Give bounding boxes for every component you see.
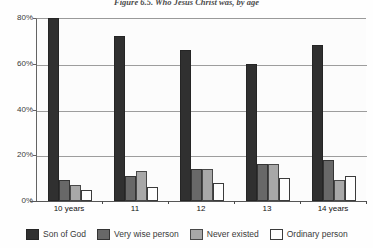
legend-item: Son of God bbox=[26, 229, 86, 240]
bar bbox=[268, 164, 279, 201]
bar bbox=[136, 171, 147, 201]
bar-group bbox=[169, 18, 235, 201]
bar-group bbox=[235, 18, 301, 201]
legend-label: Never existed bbox=[207, 230, 259, 239]
bar bbox=[59, 180, 70, 201]
bar bbox=[334, 180, 345, 201]
y-axis-tick-label: 80% bbox=[3, 14, 33, 22]
legend-swatch-icon bbox=[190, 229, 203, 240]
bar bbox=[191, 169, 202, 201]
bar bbox=[147, 187, 158, 201]
bar bbox=[70, 185, 81, 201]
y-axis-tick-label: 60% bbox=[3, 60, 33, 68]
bar bbox=[48, 18, 59, 201]
bar bbox=[312, 45, 323, 201]
legend-item: Ordinary person bbox=[270, 229, 348, 240]
bar-group bbox=[301, 18, 367, 201]
y-axis-tick-label: 0% bbox=[3, 197, 33, 205]
bar bbox=[246, 64, 257, 201]
bar bbox=[323, 160, 334, 201]
legend-item: Never existed bbox=[190, 229, 259, 240]
legend-item: Very wise person bbox=[97, 229, 179, 240]
legend-label: Son of God bbox=[43, 230, 86, 239]
x-axis-tick-mark bbox=[366, 201, 367, 204]
x-axis-tick-label: 13 bbox=[234, 204, 300, 213]
bar bbox=[125, 176, 136, 201]
chart-legend: Son of GodVery wise personNever existedO… bbox=[26, 227, 356, 242]
y-axis-tick-label: 20% bbox=[3, 151, 33, 159]
legend-swatch-icon bbox=[97, 229, 110, 240]
legend-label: Ordinary person bbox=[287, 230, 348, 239]
x-axis-tick-label: 11 bbox=[102, 204, 168, 213]
x-axis-tick-label: 12 bbox=[168, 204, 234, 213]
bar bbox=[180, 50, 191, 201]
bar bbox=[279, 178, 290, 201]
y-axis: 0%20%40%60%80% bbox=[0, 0, 33, 210]
bar bbox=[345, 176, 356, 201]
bar-group bbox=[103, 18, 169, 201]
x-axis-tick-label: 10 years bbox=[36, 204, 102, 213]
bar bbox=[213, 183, 224, 201]
bar-group bbox=[37, 18, 103, 201]
legend-label: Very wise person bbox=[114, 230, 179, 239]
legend-swatch-icon bbox=[270, 229, 283, 240]
y-axis-tick-label: 40% bbox=[3, 106, 33, 114]
bar bbox=[81, 190, 92, 201]
figure-container: Figure 6.5. Who Jesus Christ was, by age… bbox=[0, 0, 373, 248]
x-axis-baseline bbox=[30, 201, 367, 202]
figure-title: Figure 6.5. Who Jesus Christ was, by age bbox=[0, 0, 373, 7]
bar bbox=[257, 164, 268, 201]
bar bbox=[114, 36, 125, 201]
legend-swatch-icon bbox=[26, 229, 39, 240]
plot-area bbox=[36, 18, 366, 201]
x-axis-tick-label: 14 years bbox=[300, 204, 366, 213]
bar bbox=[202, 169, 213, 201]
